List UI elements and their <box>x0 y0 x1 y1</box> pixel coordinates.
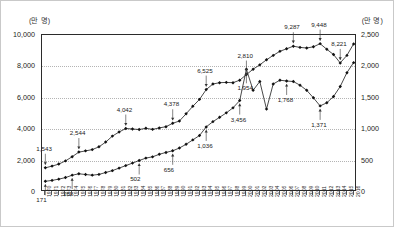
data-point <box>117 166 120 169</box>
x-tick-label: 1996 <box>221 186 227 197</box>
annotation-arrow <box>205 130 208 133</box>
x-tick-label: 2006 <box>288 186 294 197</box>
annotation-arrow <box>319 38 322 41</box>
annotation-label: 4,042 <box>117 106 132 113</box>
series-line-1 <box>45 63 353 182</box>
chart-figure: (만 명) (만 명) 02,0004,0006,0008,00010,000 … <box>0 0 394 227</box>
data-point <box>144 156 147 159</box>
data-point <box>225 81 228 84</box>
x-tick-label: 1992 <box>194 186 200 197</box>
right-tick-label: 0 <box>361 187 365 196</box>
annotation-arrow <box>319 109 322 112</box>
x-tick-label: 2007 <box>294 186 300 197</box>
data-point <box>44 166 47 169</box>
left-tick-label: 2,000 <box>17 156 35 165</box>
data-point <box>158 126 161 129</box>
x-tick-label: 1987 <box>160 186 166 197</box>
data-point <box>151 155 154 158</box>
x-tick-label: 1970 <box>46 186 52 197</box>
data-point <box>131 127 134 130</box>
data-point <box>124 164 127 167</box>
annotation-label: 1,954 <box>237 84 252 91</box>
data-point <box>44 180 47 183</box>
data-point <box>70 173 73 176</box>
x-tick-label: 2009 <box>308 186 314 197</box>
x-tick-label: 1989 <box>174 186 180 197</box>
annotation-label: 502 <box>130 175 140 182</box>
data-point <box>91 148 94 151</box>
x-tick-label: 2001 <box>254 186 260 197</box>
x-tick-label: 1975 <box>80 186 86 197</box>
annotation-arrow <box>238 104 241 107</box>
plot-area: 1,5432,5444,0424,3786,5252,8109,2879,448… <box>41 34 356 191</box>
data-point <box>265 107 268 110</box>
data-point <box>285 47 288 50</box>
x-tick-label: 1972 <box>60 186 66 197</box>
data-point <box>292 44 295 47</box>
x-tick-label: 2014 <box>341 186 347 197</box>
x-tick-label: 1979 <box>107 186 113 197</box>
left-tick-label: 4,000 <box>17 124 35 133</box>
data-point <box>84 149 87 152</box>
x-tick-label: 1991 <box>187 186 193 197</box>
x-tick-label: 1971 <box>53 186 59 197</box>
data-point <box>117 130 120 133</box>
right-tick-label: 1,000 <box>361 124 379 133</box>
x-tick-label: 1997 <box>227 186 233 197</box>
annotation-label: 2,544 <box>70 129 85 136</box>
data-point <box>131 161 134 164</box>
left-axis-unit-label: (만 명) <box>29 15 50 25</box>
data-point <box>171 122 174 125</box>
x-tick-label: 1976 <box>87 186 93 197</box>
right-axis-unit-label: (만 명) <box>362 15 383 25</box>
x-tick-label: 2005 <box>281 186 287 197</box>
annotation-label: 1,543 <box>36 145 51 152</box>
data-point <box>164 151 167 154</box>
annotation-arrow <box>44 162 47 165</box>
x-tick-label: 1980 <box>113 186 119 197</box>
data-point <box>298 46 301 49</box>
annotation-arrow <box>285 84 288 87</box>
annotation-label: 8,221 <box>331 40 346 47</box>
annotation-arrow <box>138 163 141 166</box>
x-tick-label: 1981 <box>120 186 126 197</box>
annotation-label: 9,287 <box>284 23 299 30</box>
right-tick-label: 1,500 <box>361 93 379 102</box>
x-tick-label: 1974 <box>73 186 79 197</box>
x-tick-label: 1995 <box>214 186 220 197</box>
x-tick-label: 1985 <box>147 186 153 197</box>
annotation-arrow <box>171 118 174 121</box>
data-point <box>178 146 181 149</box>
data-point <box>292 80 295 83</box>
x-tick-label: 2011 <box>321 186 327 197</box>
data-point <box>231 81 234 84</box>
annotation-arrow <box>292 41 295 44</box>
x-tick-label: 2000 <box>247 186 253 197</box>
annotation-arrow <box>205 84 208 87</box>
x-tick-label: 2003 <box>268 186 274 197</box>
x-tick-label: 2016 <box>355 186 361 197</box>
data-point <box>64 176 67 179</box>
data-point <box>164 125 167 128</box>
left-tick-label: 8,000 <box>17 61 35 70</box>
series-layer <box>42 35 357 192</box>
data-point <box>104 171 107 174</box>
left-tick-label: 0 <box>31 187 35 196</box>
x-tick-label: 1994 <box>207 186 213 197</box>
annotation-label: 6,525 <box>197 67 212 74</box>
x-tick-label: 2002 <box>261 186 267 197</box>
annotation-arrow <box>245 69 248 72</box>
x-tick-label: 1982 <box>127 186 133 197</box>
data-point <box>57 177 60 180</box>
x-tick-label: 1986 <box>154 186 160 197</box>
right-tick-label: 2,000 <box>361 61 379 70</box>
x-tick-label: 2004 <box>274 186 280 197</box>
annotation-arrow <box>339 57 342 60</box>
x-tick-label: 1993 <box>201 186 207 197</box>
annotation-label: 1,371 <box>311 121 326 128</box>
annotation-arrow <box>77 146 80 149</box>
data-point <box>171 149 174 152</box>
data-point <box>57 162 60 165</box>
annotation-label: 1,768 <box>278 96 293 103</box>
annotation-label: 4,378 <box>164 100 179 107</box>
